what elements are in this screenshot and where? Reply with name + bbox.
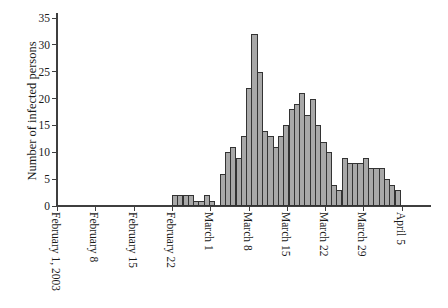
x-axis-tick: [325, 207, 326, 211]
y-axis-tick-label: 20: [20, 92, 50, 106]
x-axis-tick: [210, 207, 211, 211]
x-axis-tick: [402, 207, 403, 211]
x-axis-tick-label: February 15: [126, 212, 139, 268]
y-axis-tick-label: 5: [20, 172, 50, 186]
epidemic-curve-chart: Number of infected persons 0510152025303…: [0, 0, 448, 308]
y-axis-tick: [52, 98, 56, 99]
y-axis-tick: [52, 179, 56, 180]
bar: [209, 201, 215, 206]
x-axis-tick-label: February 1, 2003: [49, 212, 62, 291]
x-axis-tick-label: March 1: [202, 212, 215, 251]
y-axis-tick-label: 15: [20, 118, 50, 132]
x-axis-tick: [172, 207, 173, 211]
x-axis-tick-label: March 22: [317, 212, 330, 256]
y-axis-tick: [52, 206, 56, 207]
x-axis-tick: [57, 207, 58, 211]
y-axis-tick-label: 25: [20, 65, 50, 79]
x-axis-tick-label: March 15: [279, 212, 292, 256]
y-axis-tick-label: 0: [20, 199, 50, 213]
x-axis-tick: [363, 207, 364, 211]
plot-area: [57, 18, 431, 206]
x-axis-tick: [249, 207, 250, 211]
y-axis-tick-label: 30: [20, 38, 50, 52]
y-axis-tick: [52, 71, 56, 72]
y-axis-tick-label: 35: [20, 11, 50, 25]
x-axis-tick: [95, 207, 96, 211]
x-axis-tick-label: February 8: [87, 212, 100, 262]
y-axis-tick: [52, 125, 56, 126]
x-axis-tick-label: April 5: [394, 212, 407, 245]
y-axis-tick-label: 10: [20, 145, 50, 159]
x-axis-tick-label: March 29: [355, 212, 368, 256]
bar: [395, 190, 401, 206]
y-axis-tick: [52, 18, 56, 19]
x-axis-tick-label: February 22: [164, 212, 177, 268]
x-axis-tick-label: March 8: [241, 212, 254, 251]
x-axis-tick: [134, 207, 135, 211]
x-axis-tick: [287, 207, 288, 211]
y-axis-tick: [52, 152, 56, 153]
y-axis-tick: [52, 44, 56, 45]
